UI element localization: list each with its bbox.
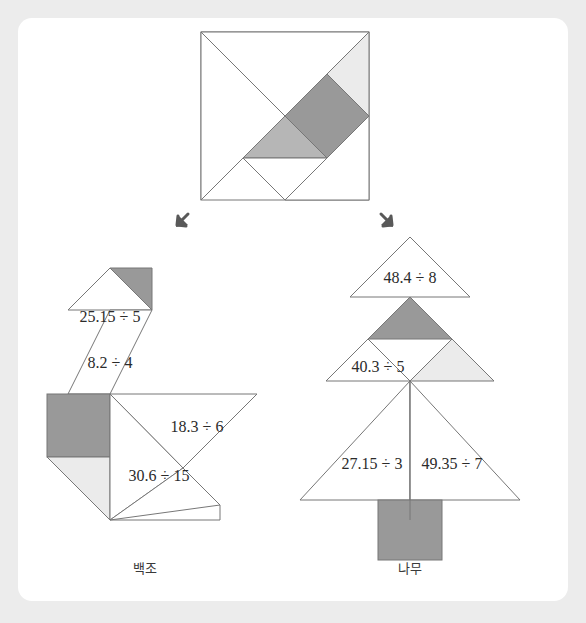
caption-tree: 나무 (360, 558, 460, 577)
worksheet-card (18, 18, 568, 601)
worksheet-page: 25.15 ÷ 5 8.2 ÷ 4 18.3 ÷ 6 30.6 ÷ 15 (0, 0, 586, 623)
caption-swan: 백조 (95, 558, 195, 577)
